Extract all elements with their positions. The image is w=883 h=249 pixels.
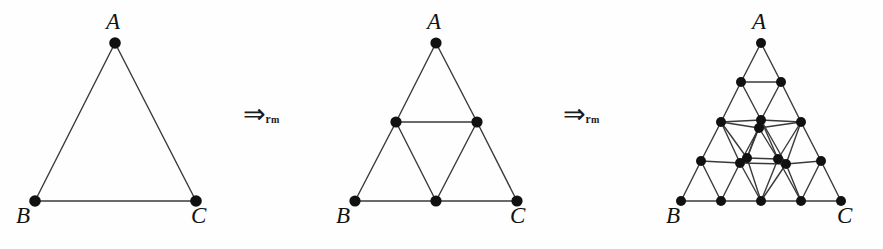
mesh-vertex: [471, 116, 482, 127]
vertex-label-B-level-2: B: [666, 204, 680, 227]
mesh-edge: [396, 43, 436, 122]
mesh-vertex: [716, 196, 726, 206]
mesh-edge: [35, 43, 115, 201]
mesh-edge: [721, 122, 740, 163]
mesh-edge: [396, 122, 436, 201]
mesh-edge: [355, 122, 396, 201]
mesh-vertex: [796, 196, 806, 206]
mesh-vertex: [349, 195, 360, 206]
mesh-edge: [701, 122, 721, 161]
mesh-vertex: [736, 77, 746, 87]
mesh-edge: [721, 82, 741, 122]
mesh-edge: [786, 161, 821, 164]
mesh-edge: [721, 163, 740, 201]
mesh-edge: [721, 120, 761, 122]
mesh-vertex: [742, 153, 752, 163]
mesh-vertex: [430, 37, 441, 48]
mesh-vertex: [109, 37, 121, 49]
triangle-panel-level-0: A B C: [0, 0, 240, 249]
mesh-edge: [741, 43, 761, 82]
arrow-subscript-2: rm: [586, 114, 600, 126]
mesh-edge: [801, 122, 821, 161]
mesh-edge: [781, 82, 801, 122]
mesh-vertex: [716, 117, 726, 127]
mesh-edge: [681, 161, 701, 201]
arrow-subscript-1: rm: [266, 114, 280, 126]
mesh-edge: [741, 82, 761, 120]
mesh-edge: [721, 122, 747, 158]
mesh-edge: [436, 43, 477, 122]
mesh-vertex: [430, 195, 441, 206]
mesh-edge: [761, 120, 801, 122]
refinement-arrow-2: ⇒ rm: [563, 99, 599, 139]
arrow-subscript-sub-2: m: [591, 114, 600, 125]
mesh-edge: [821, 161, 841, 201]
mesh-vertex: [816, 156, 826, 166]
mesh-edge: [761, 43, 781, 82]
vertex-label-A-level-2: A: [752, 10, 766, 33]
vertex-label-C-level-0: C: [191, 204, 206, 227]
mesh-vertex: [756, 196, 766, 206]
figure-root: A B C ⇒ rm A B C ⇒ rm A B C: [0, 0, 883, 249]
refinement-arrow-1: ⇒ rm: [243, 99, 279, 139]
mesh-vertex: [29, 195, 41, 207]
mesh-edge: [761, 82, 781, 120]
vertex-label-B-level-1: B: [336, 204, 350, 227]
mesh-vertex: [756, 38, 766, 48]
mesh-vertex: [781, 159, 791, 169]
vertex-label-B-level-0: B: [16, 204, 30, 227]
mesh-edge: [701, 161, 721, 201]
mesh-vertex: [390, 116, 401, 127]
mesh-vertex: [696, 156, 706, 166]
vertex-label-A-level-0: A: [106, 10, 120, 33]
mesh-vertex: [796, 117, 806, 127]
vertex-label-A-level-1: A: [427, 10, 441, 33]
mesh-vertex: [754, 123, 764, 133]
mesh-edge: [115, 43, 196, 201]
mesh-edge: [701, 161, 740, 163]
vertex-label-C-level-2: C: [837, 204, 852, 227]
mesh-edge: [801, 161, 821, 201]
vertex-label-C-level-1: C: [510, 204, 525, 227]
mesh-edge: [436, 122, 477, 201]
triangle-panel-level-2: A B C: [630, 0, 883, 249]
double-right-arrow-icon: ⇒: [563, 101, 586, 128]
triangle-panel-level-1: A B C: [310, 0, 560, 249]
double-right-arrow-icon: ⇒: [243, 101, 266, 128]
mesh-vertex: [776, 77, 786, 87]
mesh-edge: [786, 164, 801, 201]
mesh-edge: [721, 122, 759, 128]
arrow-subscript-sub-1: m: [271, 114, 280, 125]
mesh-edge: [477, 122, 517, 201]
